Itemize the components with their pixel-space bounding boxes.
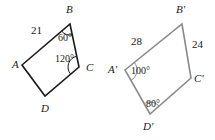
side-length-label: 21 <box>31 24 42 36</box>
vertex-label-A-prime: A' <box>107 63 118 75</box>
side-length-label: 28 <box>131 35 143 47</box>
vertex-label-B: B <box>66 3 73 15</box>
vertex-label-C: C <box>86 61 94 73</box>
vertex-label-D: D <box>40 102 49 114</box>
quadrilateral-a-prime-b-prime-c-prime-d-prime: A'B'C'D'2824100°80° <box>107 3 204 132</box>
angle-label-B: 60° <box>58 32 72 43</box>
angle-label-C: 120° <box>55 53 74 64</box>
vertex-label-A: A <box>11 58 19 70</box>
vertex-label-C-prime: C' <box>194 72 204 84</box>
vertex-label-B-prime: B' <box>176 3 186 15</box>
vertex-label-D-prime: D' <box>142 120 154 132</box>
angle-label-A-prime: 100° <box>131 65 150 76</box>
side-length-label: 24 <box>192 38 204 50</box>
figure-canvas: ABCD2160°120°A'B'C'D'2824100°80° <box>0 0 215 140</box>
geometry-figure: ABCD2160°120°A'B'C'D'2824100°80° <box>0 0 215 140</box>
quadrilateral-abcd: ABCD2160°120° <box>11 3 94 114</box>
angle-label-D-prime: 80° <box>146 98 160 109</box>
